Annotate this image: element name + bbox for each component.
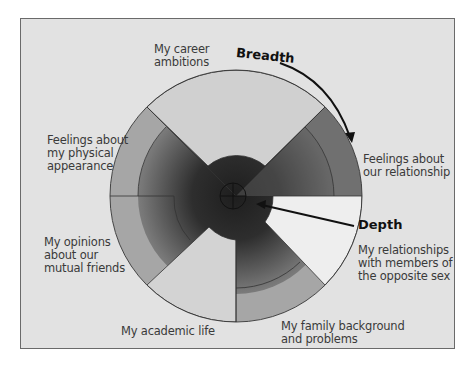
topic-label-academic: My academic life bbox=[121, 325, 215, 338]
depth-label: Depth bbox=[358, 217, 402, 232]
topic-label-relationship: Feelings about our relationship bbox=[363, 153, 450, 179]
topic-label-career: My career ambitions bbox=[154, 43, 209, 69]
center-crosshair-icon bbox=[220, 183, 246, 209]
topic-label-opposite-sex: My relationships with members of the opp… bbox=[358, 244, 452, 283]
topic-label-appearance: Feelings about my physical appearance bbox=[47, 134, 128, 173]
topic-label-family: My family background and problems bbox=[281, 320, 405, 346]
topic-label-friends: My opinions about our mutual friends bbox=[44, 236, 125, 275]
